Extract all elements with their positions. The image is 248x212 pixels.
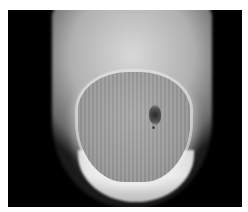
pigmented-spot — [149, 105, 161, 125]
nail-plate — [78, 72, 190, 182]
nail-photo — [8, 10, 242, 207]
small-dot — [152, 126, 155, 129]
